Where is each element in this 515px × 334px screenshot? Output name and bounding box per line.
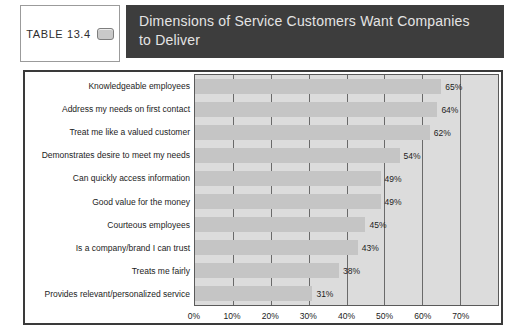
x-tick-label: 20% <box>262 311 279 321</box>
category-label: Courteous employees <box>27 213 190 236</box>
bar-row: 38% <box>195 259 498 282</box>
bar-value-label: 43% <box>362 243 379 253</box>
category-label: Demonstrates desire to meet my needs <box>27 144 190 167</box>
bar-row: 31% <box>195 282 498 305</box>
bar <box>195 263 339 278</box>
bar-value-label: 38% <box>343 266 360 276</box>
category-label: Good value for the money <box>27 190 190 213</box>
bar <box>195 171 381 186</box>
bar <box>195 148 400 163</box>
x-tick-label: 10% <box>224 311 241 321</box>
plot-area: 65%64%62%54%49%49%45%43%38%31% <box>194 74 499 306</box>
figure-title-line2: to Deliver <box>139 31 492 50</box>
bar-value-label: 62% <box>434 128 451 138</box>
category-label: Provides relevant/personalized service <box>27 283 190 306</box>
x-tick-label: 60% <box>414 311 431 321</box>
bar-row: 65% <box>195 75 498 98</box>
category-label: Is a company/brand I can trust <box>27 236 190 259</box>
table-number-label: TABLE 13.4 <box>26 28 91 40</box>
bar <box>195 217 365 232</box>
category-label: Treats me fairly <box>27 260 190 283</box>
bar-value-label: 54% <box>404 151 421 161</box>
bar <box>195 102 437 117</box>
category-label: Can quickly access information <box>27 167 190 190</box>
x-tick-label: 70% <box>452 311 469 321</box>
bar-value-label: 49% <box>385 174 402 184</box>
category-label: Knowledgeable employees <box>27 74 190 97</box>
bar <box>195 286 312 301</box>
table-tag-icon <box>97 28 114 40</box>
category-label: Address my needs on first contact <box>27 97 190 120</box>
title-bar: Dimensions of Service Customers Want Com… <box>126 5 504 58</box>
x-tick-label: 50% <box>376 311 393 321</box>
bar-value-label: 64% <box>441 105 458 115</box>
bar-row: 49% <box>195 167 498 190</box>
bar-row: 45% <box>195 213 498 236</box>
chart-panel: Knowledgeable employeesAddress my needs … <box>23 70 503 325</box>
table-tag: TABLE 13.4 <box>20 5 120 62</box>
x-tick-label: 30% <box>300 311 317 321</box>
bar <box>195 240 358 255</box>
figure-title-line1: Dimensions of Service Customers Want Com… <box>139 12 492 31</box>
bar-row: 64% <box>195 98 498 121</box>
bar-value-label: 65% <box>445 82 462 92</box>
x-tick-label: 0% <box>188 311 200 321</box>
bar <box>195 79 441 94</box>
bar-value-label: 45% <box>369 220 386 230</box>
bar-row: 49% <box>195 190 498 213</box>
category-labels: Knowledgeable employeesAddress my needs … <box>27 74 190 306</box>
bar <box>195 125 430 140</box>
x-tick-label: 40% <box>338 311 355 321</box>
bar-row: 62% <box>195 121 498 144</box>
bar-row: 54% <box>195 144 498 167</box>
x-axis: 0%10%20%30%40%50%60%70% <box>194 310 499 324</box>
bar-row: 43% <box>195 236 498 259</box>
bar-value-label: 31% <box>316 289 333 299</box>
bar <box>195 194 381 209</box>
bar-value-label: 49% <box>385 197 402 207</box>
category-label: Treat me like a valued customer <box>27 120 190 143</box>
